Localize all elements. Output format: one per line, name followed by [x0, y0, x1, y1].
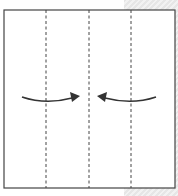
fold-diagram	[0, 0, 178, 196]
